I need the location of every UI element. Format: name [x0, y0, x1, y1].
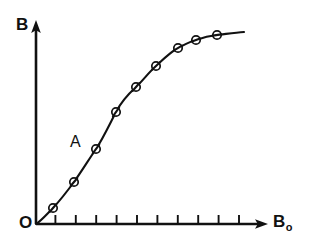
magnetization-curve-figure: B O Bo A	[0, 0, 309, 248]
x-axis-label-base: B	[273, 212, 285, 231]
x-axis-label-subscript: o	[286, 221, 293, 233]
y-axis-label: B	[16, 16, 28, 33]
plot-canvas	[0, 0, 309, 248]
data-curve	[36, 32, 244, 224]
x-axis-label: Bo	[273, 213, 292, 230]
origin-label: O	[19, 214, 32, 231]
x-axis-ticks	[55, 215, 239, 224]
data-point-markers	[49, 31, 221, 212]
point-a-label: A	[70, 134, 81, 150]
